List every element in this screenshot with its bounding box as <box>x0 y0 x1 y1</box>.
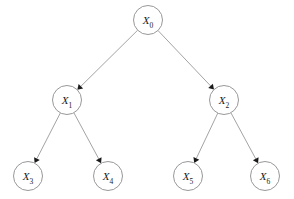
tree-diagram-canvas: X0X1X2X3X4X5X6 <box>0 0 294 199</box>
tree-diagram: X0X1X2X3X4X5X6 <box>0 0 294 199</box>
edge-X0-X2-line <box>158 31 211 86</box>
edge-X2-X5 <box>193 113 217 163</box>
node-x0[interactable]: X0 <box>134 6 163 35</box>
edge-X2-X6 <box>231 113 259 163</box>
edge-X2-X5-line <box>196 113 217 158</box>
node-x6[interactable]: X6 <box>251 162 280 191</box>
edge-X0-X1-line <box>81 30 138 86</box>
edge-X1-X3-line <box>37 113 60 159</box>
node-x2[interactable]: X2 <box>210 86 239 115</box>
edge-X1-X3 <box>34 113 60 163</box>
edge-X1-X4-line <box>74 113 99 159</box>
edge-X0-X2 <box>158 31 214 90</box>
nodes-layer: X0X1X2X3X4X5X6 <box>14 6 280 191</box>
node-x4[interactable]: X4 <box>94 162 123 191</box>
node-x1[interactable]: X1 <box>53 86 82 115</box>
edge-X1-X4 <box>74 113 102 163</box>
node-x5[interactable]: X5 <box>174 162 203 191</box>
node-x3[interactable]: X3 <box>14 162 43 191</box>
edge-X0-X1 <box>77 30 137 90</box>
edge-X2-X6-line <box>231 113 256 159</box>
